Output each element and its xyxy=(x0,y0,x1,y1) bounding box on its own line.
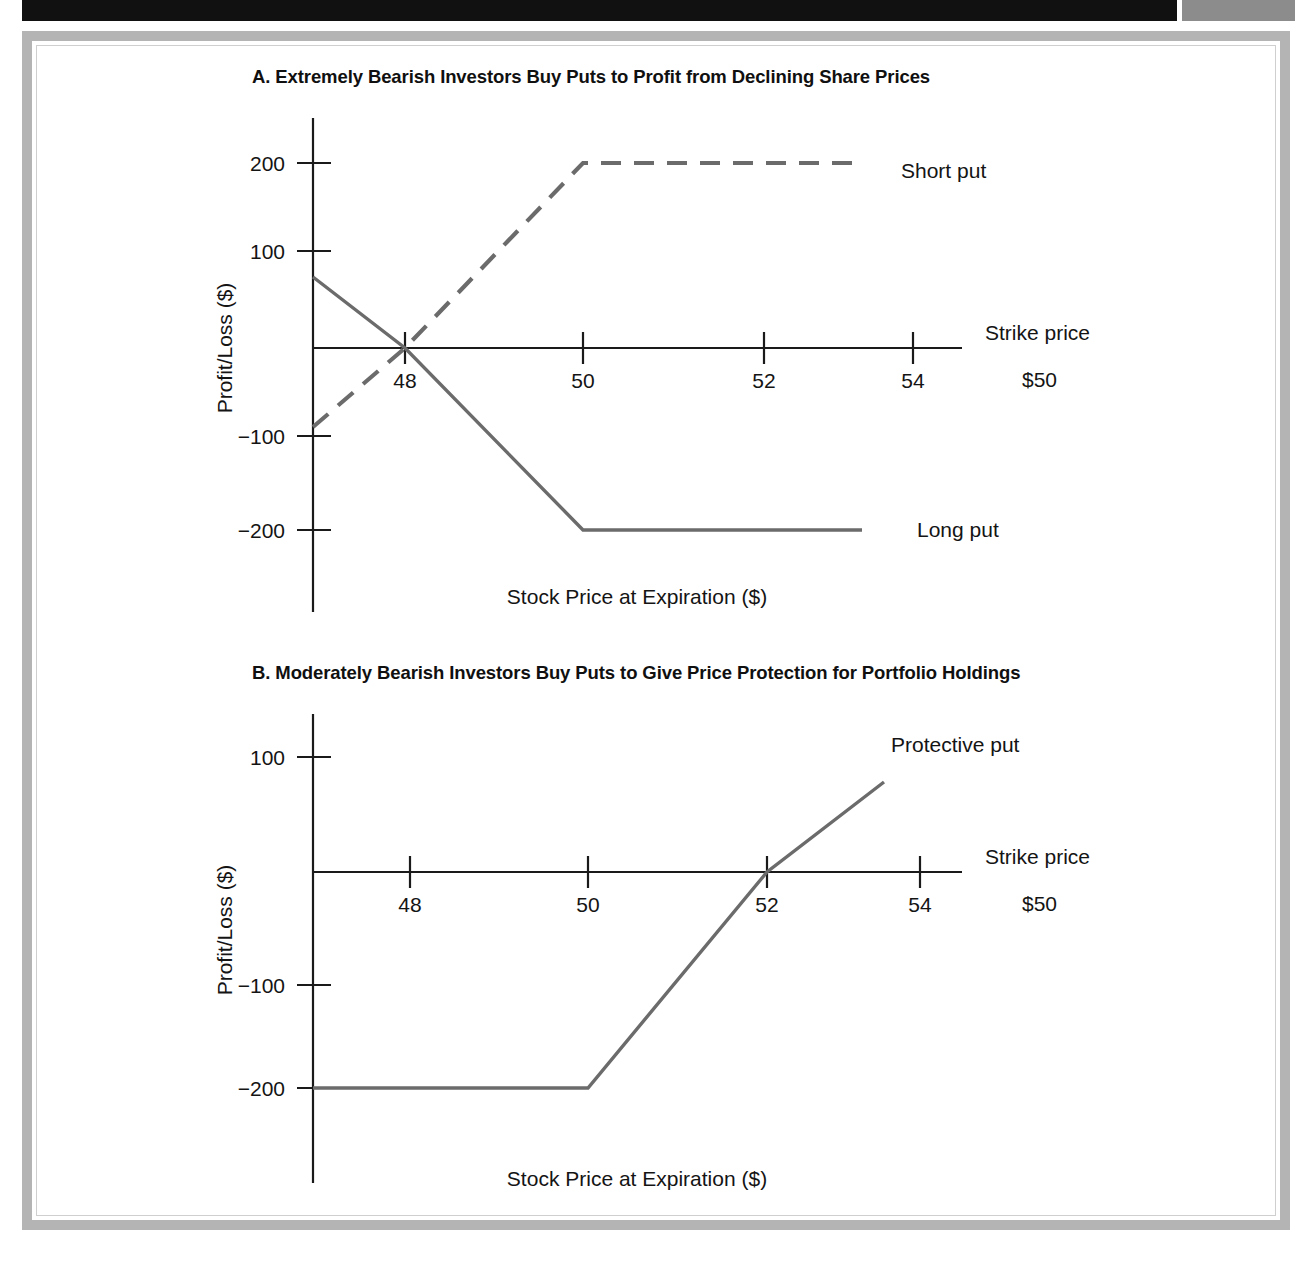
page-root: A. Extremely Bearish Investors Buy Puts … xyxy=(0,0,1313,1268)
panel-b-label-protective-put: Protective put xyxy=(891,733,1020,756)
panel-b-xlabel-50: 50 xyxy=(576,893,599,916)
panel-b-strike-price-label: Strike price xyxy=(985,845,1090,868)
panel-b-ylabel-neg200: −200 xyxy=(238,1077,285,1100)
panel-b-ylabel-neg100: −100 xyxy=(238,974,285,997)
panel-b-strike-price-value: $50 xyxy=(1022,892,1057,915)
panel-b-x-axis-title: Stock Price at Expiration ($) xyxy=(507,1167,767,1190)
panel-b-chart: 100 −100 −200 48 50 52 54 Protective put… xyxy=(0,0,1313,1268)
panel-b-series-protective-put xyxy=(313,782,884,1088)
panel-b-y-axis-title: Profit/Loss ($) xyxy=(213,865,236,996)
panel-b-xlabel-48: 48 xyxy=(398,893,421,916)
panel-b-ylabel-100: 100 xyxy=(250,746,285,769)
panel-b-xlabel-54: 54 xyxy=(908,893,932,916)
panel-b-xlabel-52: 52 xyxy=(755,893,778,916)
